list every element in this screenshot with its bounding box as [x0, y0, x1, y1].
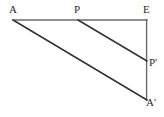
figure-canvas [0, 0, 164, 117]
geometry-figure: A P E P' A' [0, 0, 164, 117]
vertex-label-a: A [9, 4, 17, 15]
vertex-label-e: E [143, 4, 150, 15]
vertex-label-a-prime: A' [146, 97, 156, 108]
vertex-label-p-prime: P' [149, 57, 157, 68]
vertex-label-p: P [74, 4, 80, 15]
segment-p-pprime [78, 20, 147, 61]
segment-a-aprime [13, 20, 147, 100]
